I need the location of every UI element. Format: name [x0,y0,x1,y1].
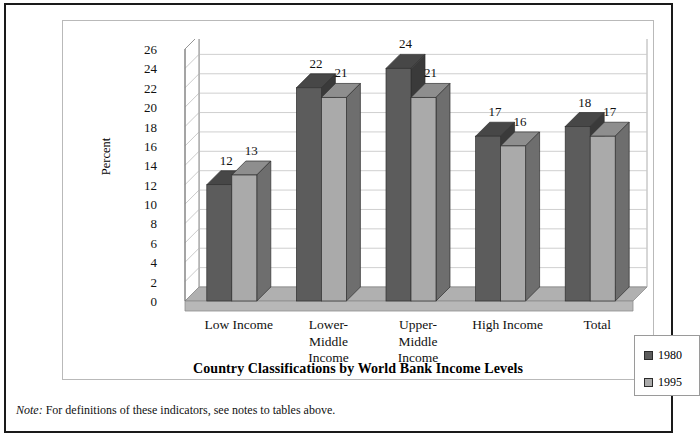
y-axis-tick-label: 22 [133,82,157,95]
bar-value-label: 24 [394,37,418,50]
x-axis-category-line: Low Income [189,317,289,334]
x-axis-category-line: Middle [368,334,468,351]
y-axis-tick-label: 6 [133,237,157,250]
x-axis-category-line: High Income [458,317,558,334]
legend-item[interactable]: 1980 [644,348,682,363]
legend-swatch-icon [644,378,653,387]
y-axis-tick-label: 12 [133,179,157,192]
y-axis-tick-label: 16 [133,140,157,153]
bar-value-label: 13 [239,144,263,157]
footnote-text: For definitions of these indicators, see… [46,403,336,417]
x-axis-category-line: Lower- [278,317,378,334]
y-axis-tick-label: 26 [133,43,157,56]
x-axis-category-label: Total [547,317,647,334]
y-axis-tick-label: 20 [133,101,157,114]
plot-area [181,39,651,315]
legend-label: 1995 [658,375,682,390]
bar-value-label: 17 [598,105,622,118]
bar-value-label: 16 [508,115,532,128]
legend-label: 1980 [658,348,682,363]
bar-value-label: 17 [483,105,507,118]
legend-swatch-icon [644,351,653,360]
y-axis-tick-label: 14 [133,159,157,172]
bar-value-label: 21 [419,66,443,79]
y-axis-tick-labels: 26242220181614121086420 [131,39,157,319]
plot-svg [181,39,651,315]
y-axis-tick-label: 18 [133,121,157,134]
chart-frame: 26242220181614121086420 Percent 1213Low … [62,20,654,380]
y-axis-tick-label: 10 [133,198,157,211]
bar-value-label: 18 [573,96,597,109]
chart-legend: 19801995 [634,335,700,396]
x-axis-category-label: Lower-MiddleIncome [278,317,378,367]
y-axis-tick-label: 24 [133,62,157,75]
y-axis-tick-label: 4 [133,256,157,269]
x-axis-category-line: Total [547,317,647,334]
legend-item[interactable]: 1995 [644,375,682,390]
figure-container: 26242220181614121086420 Percent 1213Low … [4,3,673,433]
footnote: Note: For definitions of these indicator… [16,403,335,418]
y-axis-label: Percent [99,112,114,202]
bar-value-label: 21 [329,66,353,79]
y-axis-tick-label: 0 [133,295,157,308]
bar-value-label: 12 [214,154,238,167]
x-axis-category-label: Upper-MiddleIncome [368,317,468,367]
y-axis-tick-label: 8 [133,217,157,230]
x-axis-category-label: Low Income [189,317,289,334]
bar-value-label: 22 [304,57,328,70]
x-axis-category-line: Upper- [368,317,468,334]
x-axis-category-line: Middle [278,334,378,351]
footnote-lead: Note: [16,403,43,417]
x-axis-category-label: High Income [458,317,558,334]
chart-title: Country Classifications by World Bank In… [63,361,653,377]
y-axis-tick-label: 2 [133,276,157,289]
